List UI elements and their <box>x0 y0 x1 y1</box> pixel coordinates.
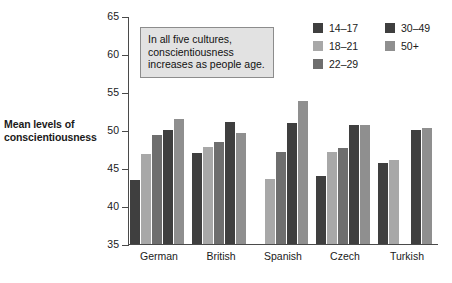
legend-item-18-21[interactable]: 18–21 <box>313 40 358 51</box>
bar <box>298 101 309 244</box>
bar <box>192 153 203 244</box>
legend-item-14-17[interactable]: 14–17 <box>313 22 358 33</box>
y-axis-tick-mark <box>122 55 128 56</box>
legend-item-30-49[interactable]: 30–49 <box>385 22 430 33</box>
bar <box>287 123 298 244</box>
y-axis-title-line-2: conscientiousness <box>4 131 108 144</box>
bar <box>265 179 276 244</box>
x-axis-category-label: Czech <box>314 250 376 262</box>
bar <box>349 125 360 244</box>
annotation-callout: In all five cultures, conscientiousness … <box>140 27 274 78</box>
legend-item-50-plus[interactable]: 50+ <box>385 40 430 51</box>
y-axis-tick-label: 40 <box>107 200 119 212</box>
legend-label: 30–49 <box>401 22 430 34</box>
y-axis-title: Mean levels of conscientiousness <box>4 118 108 143</box>
bar <box>236 133 247 244</box>
y-axis-tick-label: 45 <box>107 162 119 174</box>
bar <box>422 128 433 244</box>
legend-swatch-icon <box>385 23 395 33</box>
legend-swatch-icon <box>385 41 395 51</box>
bar <box>152 135 163 244</box>
y-axis-tick-label: 65 <box>107 10 119 22</box>
bar <box>163 130 174 244</box>
y-axis-tick-mark <box>122 131 128 132</box>
legend-label: 22–29 <box>329 58 358 70</box>
bar <box>411 130 422 244</box>
y-axis-tick-label: 35 <box>107 238 119 250</box>
bar <box>214 142 225 244</box>
legend-swatch-icon <box>313 59 323 69</box>
y-axis-tick-mark <box>122 169 128 170</box>
y-axis-tick-label: 60 <box>107 48 119 60</box>
x-axis-category-label: German <box>128 250 190 262</box>
bar <box>203 147 214 244</box>
bar <box>389 160 400 244</box>
legend-column: 30–4950+ <box>385 22 430 58</box>
y-axis-tick-mark <box>122 245 128 246</box>
legend-label: 18–21 <box>329 40 358 52</box>
y-axis-tick-mark <box>122 207 128 208</box>
bar-chart: Mean levels of conscientiousness 3540455… <box>0 0 452 283</box>
bar <box>276 152 287 244</box>
legend-swatch-icon <box>313 41 323 51</box>
y-axis-tick-mark <box>122 93 128 94</box>
bar <box>360 125 371 244</box>
y-axis-title-line-1: Mean levels of <box>4 118 108 131</box>
annotation-text: In all five cultures, conscientiousness … <box>148 33 265 70</box>
legend-label: 14–17 <box>329 22 358 34</box>
bar <box>141 154 152 244</box>
legend-column: 14–1718–2122–29 <box>313 22 358 76</box>
bar <box>174 119 185 244</box>
bar <box>327 152 338 244</box>
legend-swatch-icon <box>313 23 323 33</box>
bar <box>225 122 236 244</box>
bar <box>130 180 141 244</box>
x-axis-category-label: British <box>190 250 252 262</box>
legend-item-22-29[interactable]: 22–29 <box>313 58 358 69</box>
x-axis-category-label: Spanish <box>252 250 314 262</box>
bar <box>338 148 349 244</box>
bar <box>378 163 389 244</box>
legend-label: 50+ <box>401 40 419 52</box>
x-axis-line <box>128 244 438 245</box>
y-axis-tick-label: 55 <box>107 86 119 98</box>
y-axis-tick-label: 50 <box>107 124 119 136</box>
bar <box>316 176 327 244</box>
y-axis-tick-mark <box>122 17 128 18</box>
legend: 14–1718–2122–2930–4950+ <box>313 22 448 74</box>
x-axis-category-label: Turkish <box>376 250 438 262</box>
